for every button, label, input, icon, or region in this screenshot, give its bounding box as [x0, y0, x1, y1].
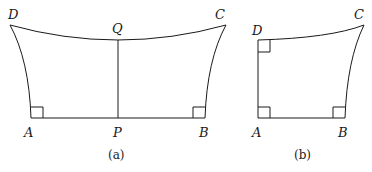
caption-b: (b) [294, 148, 311, 162]
right-angle-D [258, 40, 270, 52]
label-A-b: A [251, 125, 261, 140]
curve-DC-b [258, 25, 364, 40]
label-A-a: A [23, 125, 33, 140]
right-angle-A [31, 107, 43, 118]
right-angle-A-b [258, 107, 270, 118]
side-AD [10, 25, 31, 118]
label-P: P [112, 125, 122, 140]
caption-a: (a) [108, 148, 125, 162]
label-C-b: C [354, 7, 364, 22]
right-angle-B-b [333, 107, 345, 118]
label-D-b: D [251, 23, 263, 38]
label-B-b: B [337, 125, 348, 140]
right-angle-B [193, 107, 205, 118]
diagram-canvas: D Q C A P B (a) D C A B (b) [0, 0, 372, 172]
figure-b: D C A B (b) [251, 7, 364, 162]
label-D-a: D [7, 7, 19, 22]
side-BC [205, 25, 226, 118]
figure-a: D Q C A P B (a) [7, 7, 226, 162]
side-BC-b [345, 25, 364, 118]
label-Q: Q [112, 21, 123, 36]
label-C-a: C [215, 7, 225, 22]
label-B-a: B [198, 125, 209, 140]
